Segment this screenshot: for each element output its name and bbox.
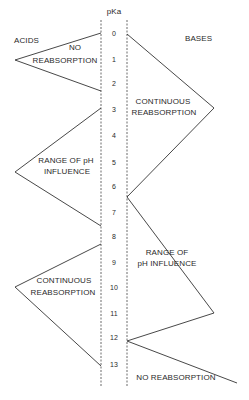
bases-zigzag-line	[127, 34, 237, 383]
pka-tick-7: 7	[104, 209, 124, 217]
acids-continuous-wedge	[15, 244, 101, 366]
pka-tick-2: 2	[104, 80, 124, 88]
pka-tick-1: 1	[104, 56, 124, 64]
acids-region-3-line2: REABSORPTION	[30, 288, 96, 298]
pka-tick-5: 5	[104, 159, 124, 167]
pka-tick-11: 11	[104, 310, 124, 318]
pka-tick-8: 8	[104, 233, 124, 241]
bases-region-2-line1: RANGE OF	[142, 248, 192, 258]
pka-tick-9: 9	[104, 259, 124, 267]
pka-tick-10: 10	[104, 284, 124, 292]
acids-region-1-line2: REABSORPTION	[32, 56, 98, 66]
pka-tick-6: 6	[104, 183, 124, 191]
pka-tick-0: 0	[104, 30, 124, 38]
acids-region-2-line2: INFLUENCE	[40, 167, 94, 177]
acids-header: ACIDS	[14, 36, 39, 46]
acids-region-2-line1: RANGE OF pH	[36, 156, 96, 166]
axis-title: pKa	[104, 7, 124, 17]
acids-region-1-line1: NO	[60, 43, 90, 53]
bases-header: BASES	[185, 34, 212, 44]
bases-region-2-line2: pH INFLUENCE	[134, 259, 200, 269]
bases-region-1-line2: REABSORPTION	[130, 108, 198, 118]
bases-region-3-label: NO REABSORPTION	[134, 373, 218, 383]
bases-region-1-line1: CONTINUOUS	[132, 97, 194, 107]
acids-region-3-line1: CONTINUOUS	[34, 276, 94, 286]
pka-tick-3: 3	[104, 106, 124, 114]
pka-tick-13: 13	[104, 361, 124, 369]
pka-tick-4: 4	[104, 132, 124, 140]
pka-tick-12: 12	[104, 334, 124, 342]
